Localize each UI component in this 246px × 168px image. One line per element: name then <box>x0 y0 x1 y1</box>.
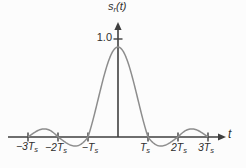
tick-text: −T <box>82 141 95 153</box>
y-axis-title: sr(t) <box>108 1 126 15</box>
x-tick-label-pos-2ts: 2Ts <box>171 142 187 156</box>
x-tick-label-neg-3ts: −3Ts <box>16 141 38 155</box>
amplitude-label: 1.0 <box>92 32 112 43</box>
x-axis-label: t <box>228 129 231 140</box>
x-tick-label-pos-1ts: Ts <box>140 142 150 156</box>
tick-subscript: s <box>94 146 98 155</box>
x-tick-label-pos-3ts: 3Ts <box>198 142 214 156</box>
y-axis-title-rest: (t) <box>116 0 126 12</box>
sinc-pulse-figure: sr(t) 1.0 −3Ts −2Ts −Ts Ts 2Ts 3Ts t <box>0 0 246 168</box>
tick-subscript: s <box>183 146 187 155</box>
x-axis-arrow-icon <box>218 133 226 140</box>
tick-text: 2T <box>171 141 183 153</box>
tick-subscript: s <box>63 146 67 155</box>
tick-text: −3T <box>16 140 34 152</box>
x-tick-label-neg-1ts: −Ts <box>82 142 98 156</box>
tick-subscript: s <box>210 146 214 155</box>
y-axis-arrow-icon <box>114 22 121 30</box>
tick-subscript: s <box>34 145 38 154</box>
tick-text: 3T <box>198 141 210 153</box>
tick-subscript: s <box>146 146 150 155</box>
tick-text: −2T <box>45 141 63 153</box>
x-tick-label-neg-2ts: −2Ts <box>45 142 67 156</box>
